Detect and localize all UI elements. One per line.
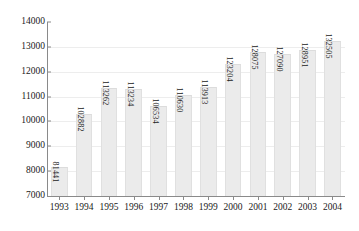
x-tick-label: 2003	[298, 203, 317, 213]
x-tick-label: 1993	[50, 203, 69, 213]
y-tick-label: 10000	[21, 117, 45, 127]
bar-value-label: 81441	[51, 162, 59, 183]
x-tick-label: 1996	[124, 203, 143, 213]
bar-2003: 128951	[299, 50, 316, 196]
x-tick-label: 1998	[174, 203, 193, 213]
bar-2004: 132505	[324, 41, 341, 196]
y-tick-label: 12000	[21, 67, 45, 77]
x-tick-label: 1997	[149, 203, 168, 213]
x-axis	[47, 196, 345, 197]
bar-1998: 110630	[175, 95, 192, 196]
bar-chart: 14000 13000 12000 11000 10000 9000 8000 …	[0, 0, 359, 231]
bar-1996: 113234	[125, 89, 142, 196]
y-axis-tick-labels: 14000 13000 12000 11000 10000 9000 8000 …	[0, 0, 45, 231]
bar-1994: 102882	[76, 114, 93, 196]
bar-value-label: 102882	[76, 106, 84, 131]
y-tick-label: 14000	[21, 17, 45, 27]
x-tick-label: 1994	[75, 203, 94, 213]
bar-value-label: 132505	[324, 33, 332, 58]
bar-2000: 123204	[225, 64, 242, 196]
bar-value-label: 113262	[101, 81, 109, 106]
x-tick-label: 2002	[273, 203, 292, 213]
y-tick-label: 9000	[26, 142, 45, 152]
y-tick-label: 7000	[26, 191, 45, 201]
x-tick-label: 2004	[323, 203, 342, 213]
bar-value-label: 113913	[200, 80, 208, 105]
x-tick-label: 1999	[199, 203, 218, 213]
bar-1995: 113262	[101, 88, 118, 196]
bar-value-label: 128075	[250, 44, 258, 69]
y-tick-label: 13000	[21, 42, 45, 52]
bar-value-label: 128951	[300, 42, 308, 67]
bar-2002: 127090	[274, 54, 291, 196]
bar-value-label: 113234	[126, 81, 134, 106]
bar-1993: 81441	[51, 167, 68, 196]
bar-value-label: 127090	[275, 47, 283, 72]
y-tick-label: 11000	[22, 92, 45, 102]
bar-1997: 106534	[150, 106, 167, 197]
bar-value-label: 123204	[225, 56, 233, 81]
bar-2001: 128075	[250, 52, 267, 196]
bar-1999: 113913	[200, 87, 217, 196]
bars-layer: 81441 102882 113262 113234 106534 110630…	[47, 22, 345, 196]
x-tick-label: 2001	[248, 203, 267, 213]
x-tick-label: 2000	[224, 203, 243, 213]
bar-value-label: 110630	[175, 88, 183, 113]
y-tick-label: 8000	[26, 166, 45, 176]
x-tick-label: 1995	[99, 203, 118, 213]
bar-value-label: 106534	[151, 98, 159, 123]
